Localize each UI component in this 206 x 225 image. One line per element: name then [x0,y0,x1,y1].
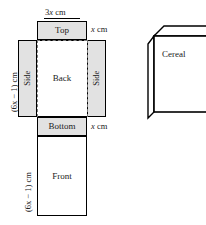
fold-line-back-right [87,40,88,117]
cereal-box-left-face [148,36,154,118]
top-width-label: 3x cm [45,8,66,17]
top-flap-depth-variable: x [91,24,95,34]
panel-front-label: Front [52,172,72,181]
cereal-box-top-face [154,26,206,36]
panel-back-label: Back [53,74,72,83]
cereal-box-figure: 3x cm Top x cm Side Back Side Bottom x c… [0,0,206,225]
top-flap-depth-unit: cm [97,24,107,34]
panel-bottom-label: Bottom [48,122,75,131]
bottom-flap-depth-unit: cm [97,121,107,131]
bottom-flap-depth-variable: x [91,121,95,131]
back-height-text: (6x − 1) cm [9,72,19,112]
bottom-flap-depth-label: x cm [91,122,107,131]
front-height-label: (6x − 1) cm [24,172,33,212]
panel-front: Front [37,136,87,216]
panel-top-label: Top [55,26,69,35]
cereal-box-svg [144,24,206,120]
panel-side-left-label: Side [23,71,32,86]
fold-line-back-left [37,40,38,117]
top-width-unit: cm [55,7,65,17]
panel-side-left: Side [18,40,37,117]
panel-back: Back [37,40,87,117]
panel-top: Top [37,21,87,40]
top-width-variable: x [49,7,53,17]
back-height-label: (6x − 1) cm [10,72,19,112]
cereal-box-label: Cereal [162,50,185,59]
panel-bottom: Bottom [37,117,87,136]
fold-line-top-back [37,40,87,41]
panel-side-right: Side [87,40,106,117]
front-height-text: (6x − 1) cm [23,172,33,212]
panel-side-right-label: Side [92,71,101,86]
top-flap-depth-label: x cm [91,25,107,34]
cereal-box-front-face [154,36,206,112]
top-width-dimension-rule [44,18,80,19]
cereal-box-3d: Cereal [144,24,206,120]
